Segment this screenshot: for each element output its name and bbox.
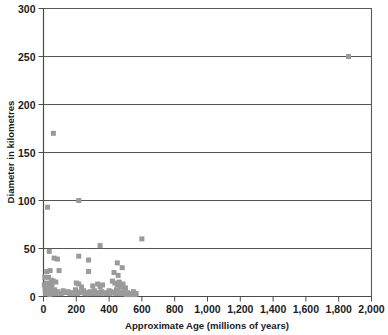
y-tick-label-100: 100 <box>18 195 36 207</box>
data-point <box>77 290 82 295</box>
x-tick-label-1200: 1,200 <box>227 303 253 315</box>
y-axis-ticks <box>39 9 44 297</box>
data-point <box>93 291 98 296</box>
data-point <box>59 291 64 296</box>
gridlines <box>44 57 372 249</box>
data-point <box>48 268 53 273</box>
data-point <box>98 243 103 248</box>
x-tick-label-1600: 1,600 <box>293 303 319 315</box>
x-tick-label-1000: 1,000 <box>194 303 220 315</box>
data-point <box>107 291 112 296</box>
y-axis-title: Diameter in kilometres <box>5 101 16 204</box>
y-tick-label-150: 150 <box>18 147 36 159</box>
data-point <box>86 258 91 263</box>
x-axis-title: Approximate Age (millions of years) <box>125 320 289 331</box>
data-point <box>51 131 56 136</box>
data-point <box>76 254 81 259</box>
y-tick-label-250: 250 <box>18 51 36 63</box>
y-tick-label-50: 50 <box>24 243 36 255</box>
x-tick-label-400: 400 <box>100 303 118 315</box>
data-point <box>86 269 91 274</box>
x-tick-label-800: 800 <box>166 303 184 315</box>
data-point <box>57 268 62 273</box>
x-axis-ticks <box>44 297 372 302</box>
data-point <box>120 265 125 270</box>
data-point <box>90 283 95 288</box>
data-point <box>55 257 60 262</box>
y-tick-label-0: 0 <box>30 291 36 303</box>
data-point <box>100 282 105 287</box>
data-points <box>42 54 351 297</box>
data-point <box>47 249 52 254</box>
y-tick-label-300: 300 <box>18 3 36 15</box>
x-tick-label-2000: 2,000 <box>358 303 384 315</box>
data-point <box>54 291 59 296</box>
data-point <box>63 290 68 295</box>
data-point <box>76 198 81 203</box>
scatter-chart: 02004006008001,0001,2001,4001,6001,8002,… <box>0 0 388 335</box>
x-tick-label-1400: 1,400 <box>260 303 286 315</box>
data-point <box>44 288 49 293</box>
data-point <box>42 282 47 287</box>
x-axis-tick-labels: 02004006008001,0001,2001,4001,6001,8002,… <box>41 303 385 315</box>
data-point <box>139 236 144 241</box>
data-point <box>89 291 94 296</box>
data-point <box>115 260 120 265</box>
data-point <box>45 205 50 210</box>
data-point <box>133 292 138 297</box>
x-tick-label-600: 600 <box>133 303 151 315</box>
data-point <box>42 275 47 280</box>
y-axis-tick-labels: 050100150200250300 <box>18 3 36 303</box>
chart-canvas: 02004006008001,0001,2001,4001,6001,8002,… <box>0 0 388 335</box>
x-tick-label-200: 200 <box>68 303 86 315</box>
y-tick-label-200: 200 <box>18 99 36 111</box>
data-point <box>346 54 351 59</box>
x-tick-label-0: 0 <box>41 303 47 315</box>
data-point <box>68 291 73 296</box>
data-point <box>116 273 121 278</box>
data-point <box>98 291 103 296</box>
x-tick-label-1800: 1,800 <box>326 303 352 315</box>
